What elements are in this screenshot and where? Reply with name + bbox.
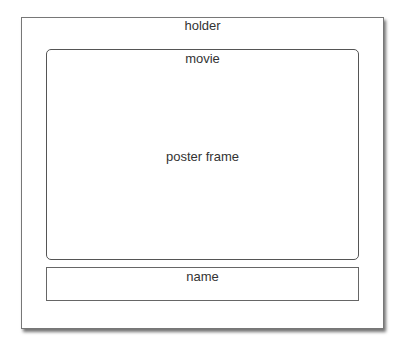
- holder-box: holder movie poster frame name: [21, 17, 384, 329]
- movie-label: movie: [47, 51, 358, 66]
- holder-label: holder: [22, 18, 383, 33]
- name-label: name: [47, 269, 358, 284]
- poster-frame-label: poster frame: [47, 149, 358, 164]
- movie-box: movie poster frame: [46, 49, 359, 260]
- name-box: name: [46, 267, 359, 301]
